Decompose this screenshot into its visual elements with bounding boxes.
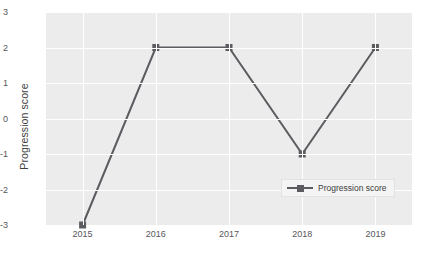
x-axis-tick-label: 2019 — [351, 229, 399, 239]
legend-label-progression-score: Progression score — [318, 183, 387, 193]
y-axis-tick-label: -3 — [0, 220, 8, 230]
y-axis-tick-label: -2 — [0, 185, 8, 195]
x-axis-tick-label: 2017 — [205, 229, 253, 239]
gridline-vertical — [229, 12, 230, 225]
gridline-vertical — [83, 12, 84, 225]
line-chart-figure: Progression score Progression score 3210… — [0, 0, 422, 253]
y-axis-tick-label: 0 — [0, 114, 8, 124]
y-axis-tick-label: 3 — [0, 7, 8, 17]
y-axis-tick-label: -1 — [0, 149, 8, 159]
y-axis-title: Progression score — [16, 0, 32, 253]
x-axis-tick-label: 2015 — [59, 229, 107, 239]
y-axis-tick-label: 2 — [0, 43, 8, 53]
x-axis-tick-label: 2018 — [278, 229, 326, 239]
x-axis-tick-label: 2016 — [132, 229, 180, 239]
chart-legend[interactable]: Progression score — [281, 179, 395, 197]
gridline-vertical — [156, 12, 157, 225]
legend-marker-progression-score — [287, 183, 313, 193]
y-axis-tick-label: 1 — [0, 78, 8, 88]
